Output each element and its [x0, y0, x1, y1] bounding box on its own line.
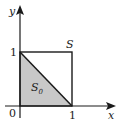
origin-label: 0 — [9, 107, 16, 120]
unit-square-diagram: y x 0 1 1 S S0 — [0, 0, 121, 122]
triangle-label-subscript: 0 — [39, 88, 44, 96]
y-axis-label: y — [8, 5, 16, 18]
x-axis-label: x — [108, 109, 115, 122]
y-tick-one: 1 — [10, 46, 17, 59]
x-tick-one: 1 — [69, 109, 76, 122]
square-label: S — [66, 38, 74, 51]
